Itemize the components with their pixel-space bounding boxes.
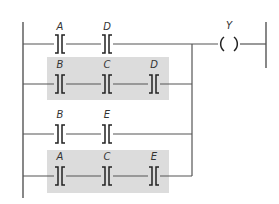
svg-text:E: E: [151, 151, 158, 162]
svg-text:B: B: [57, 109, 64, 120]
svg-text:Y: Y: [226, 20, 233, 31]
contact-A-rung1: A: [54, 21, 66, 54]
contact-E-rung3: E: [101, 109, 113, 144]
contact-D-rung1: D: [101, 21, 113, 54]
svg-text:A: A: [56, 151, 64, 162]
svg-text:C: C: [104, 59, 111, 70]
svg-text:A: A: [56, 21, 64, 32]
svg-text:D: D: [103, 21, 111, 32]
svg-text:B: B: [57, 59, 64, 70]
ladder-diagram: A D B C D B E A C: [0, 0, 279, 204]
svg-text:E: E: [104, 109, 111, 120]
svg-text:C: C: [104, 151, 111, 162]
svg-text:D: D: [150, 59, 158, 70]
output-coil-Y: Y: [218, 20, 240, 52]
contact-B-rung3: B: [54, 109, 66, 144]
